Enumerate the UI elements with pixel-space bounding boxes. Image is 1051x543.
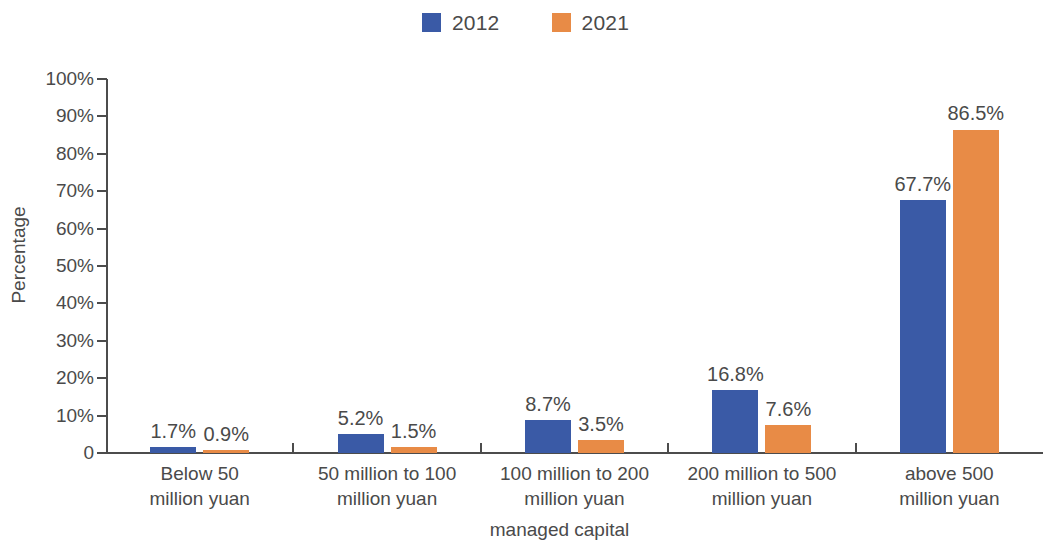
chart-legend: 2012 2021 [0,12,1051,33]
category-label-line1: Below 50 [106,461,293,486]
category-label-line2: million yuan [106,486,293,511]
bar-value-label: 3.5% [556,414,646,434]
legend-swatch-2021 [552,13,571,32]
legend-swatch-2012 [422,13,441,32]
bar-2021-0[interactable] [203,450,249,453]
y-axis-tick-label: 30% [32,331,94,350]
bar-2012-0[interactable] [150,447,196,453]
legend-label-2021: 2021 [582,12,630,33]
category-label: Below 50million yuan [106,461,293,512]
bar-value-label: 7.6% [743,399,833,419]
bar-value-label: 8.7% [503,394,593,414]
bar-value-label: 1.5% [369,421,459,441]
legend-item-2012: 2012 [422,12,500,33]
bar-value-label: 16.8% [690,364,780,384]
y-axis-tick-label: 80% [32,144,94,163]
plot-area: 1.7%0.9%5.2%1.5%8.7%3.5%16.8%7.6%67.7%86… [106,79,1043,453]
category-label-line1: 100 million to 200 [481,461,668,486]
y-axis-tick-label: 90% [32,106,94,125]
y-axis-tick-label: 100% [32,69,94,88]
category-label-line1: 50 million to 100 [293,461,480,486]
bar-chart: 2012 2021 Percentage 100%90%80%70%60%50%… [0,0,1051,543]
y-axis-tick-label: 70% [32,181,94,200]
y-axis-tick-label: 60% [32,219,94,238]
category-label-line1: above 500 [856,461,1043,486]
category-label-line2: million yuan [668,486,855,511]
x-axis-title: managed capital [0,519,1051,541]
category-label-line1: 200 million to 500 [668,461,855,486]
category-label: 200 million to 500million yuan [668,461,855,512]
y-axis-tick-label: 40% [32,293,94,312]
category-label: 100 million to 200million yuan [481,461,668,512]
bar-value-label: 86.5% [931,103,1021,123]
y-axis-tick-label: 50% [32,256,94,275]
y-axis-tick-label: 0 [32,443,94,462]
category-label: 50 million to 100million yuan [293,461,480,512]
category-label-line2: million yuan [293,486,480,511]
category-label-line2: million yuan [481,486,668,511]
legend-item-2021: 2021 [552,12,630,33]
bar-value-label: 0.9% [181,424,271,444]
category-label-line2: million yuan [856,486,1043,511]
bar-2021-4[interactable] [953,130,999,454]
legend-label-2012: 2012 [452,12,500,33]
bar-2021-1[interactable] [391,447,437,453]
bar-2012-4[interactable] [900,200,946,453]
bar-2021-2[interactable] [578,440,624,453]
y-axis-tick-label: 20% [32,368,94,387]
bar-2021-3[interactable] [765,425,811,453]
category-label: above 500million yuan [856,461,1043,512]
y-axis-tick-label: 10% [32,406,94,425]
y-axis-title: Percentage [8,195,30,315]
